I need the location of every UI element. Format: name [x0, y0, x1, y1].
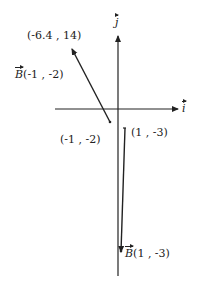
vector-b2-label: B(1 , -3)	[125, 248, 170, 259]
end-point-label: (-6.4 , 14)	[27, 30, 81, 41]
vector-b-1-neg3	[121, 128, 125, 252]
vector-b-label: B(-1 , -2)	[15, 69, 64, 80]
x-axis-label: i	[182, 103, 186, 114]
vector-b-neg1-neg2	[72, 49, 110, 122]
y-axis-label: j	[115, 17, 118, 28]
start-point-label: (-1 , -2)	[60, 134, 101, 145]
point-label-1-neg3: (1 , -3)	[131, 127, 168, 138]
